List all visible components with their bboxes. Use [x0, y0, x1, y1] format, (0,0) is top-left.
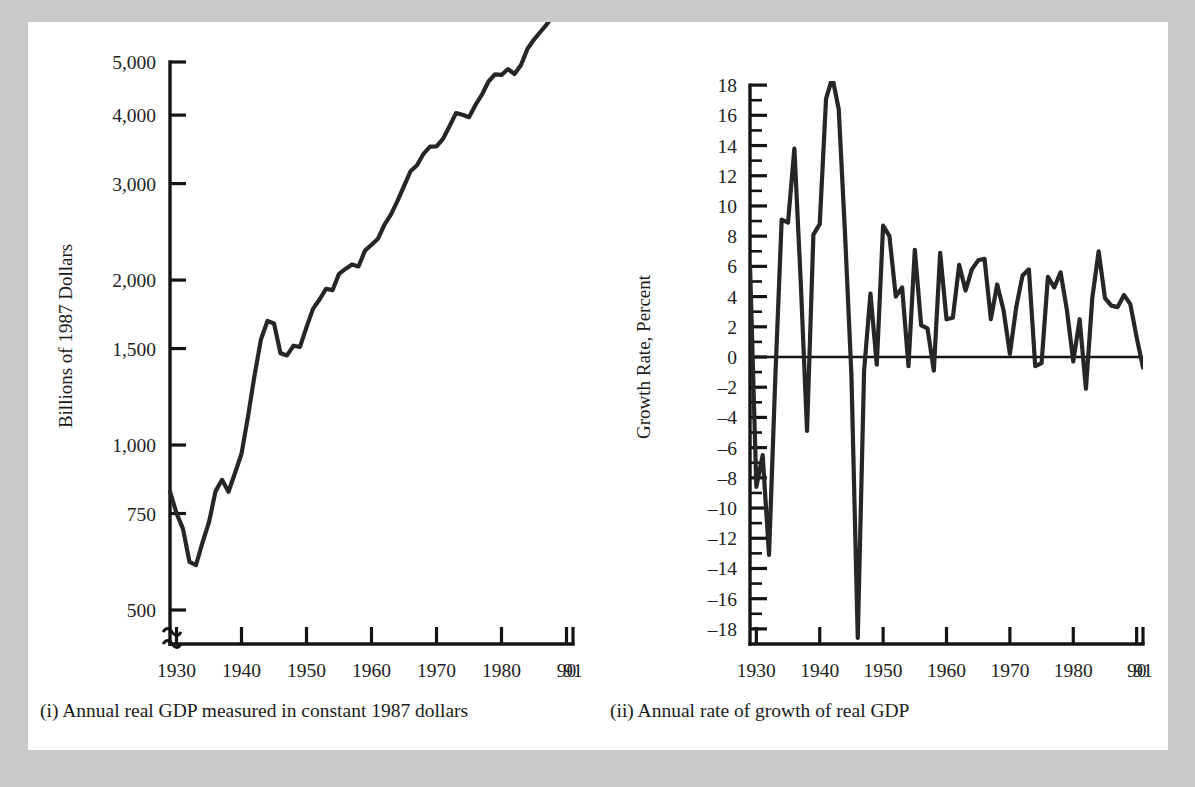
x-tick-label: 1970 — [990, 660, 1029, 681]
caption-panel-ii: (ii) Annual rate of growth of real GDP — [610, 700, 909, 722]
y-tick-label: 2 — [727, 317, 737, 338]
y-tick-label: –16 — [707, 589, 738, 610]
y-tick-label: –6 — [717, 438, 738, 459]
caption-panel-i: (i) Annual real GDP measured in constant… — [40, 700, 468, 722]
y-tick-label: –4 — [717, 407, 738, 428]
panel-real-gdp-growth: 181614121086420–2–4–6–8–10–12–14–16–1819… — [598, 22, 1168, 750]
x-tick-label: 1980 — [1054, 660, 1093, 681]
y-tick-label: 750 — [127, 504, 156, 525]
y-tick-label: 10 — [718, 196, 738, 217]
y-tick-label: 4 — [727, 287, 737, 308]
y-tick-label: 8 — [727, 226, 737, 247]
y-tick-label: 5,000 — [112, 52, 156, 73]
y-tick-label: 14 — [718, 136, 738, 157]
y-tick-label: –2 — [717, 377, 738, 398]
y-tick-label: –8 — [717, 468, 738, 489]
y-tick-label: 4,000 — [112, 105, 156, 126]
y-tick-label: –10 — [707, 498, 737, 519]
x-tick-label: 1930 — [737, 660, 776, 681]
y-tick-label: 0 — [727, 347, 737, 368]
figure-page: 5007501,0001,5002,0003,0004,0005,0001930… — [28, 22, 1168, 750]
y-tick-label: –14 — [707, 558, 738, 579]
x-tick-label: 1970 — [417, 660, 456, 681]
x-tick-label: 1940 — [800, 660, 839, 681]
x-tick-label: 1980 — [482, 660, 521, 681]
y-axis-title: Billions of 1987 Dollars — [55, 244, 76, 428]
chart-real-gdp-growth: 181614121086420–2–4–6–8–10–12–14–16–1819… — [598, 22, 1168, 722]
y-tick-label: 18 — [718, 75, 738, 96]
series-line-gdp-level — [170, 22, 573, 565]
y-tick-label: 1,500 — [112, 339, 156, 360]
y-tick-label: 3,000 — [112, 174, 156, 195]
x-tick-label: 1960 — [352, 660, 391, 681]
chart-real-gdp-level: 5007501,0001,5002,0003,0004,0005,0001930… — [28, 22, 598, 722]
x-tick-label: 1950 — [864, 660, 903, 681]
figure-wrapper: 5007501,0001,5002,0003,0004,0005,0001930… — [28, 22, 1168, 750]
y-tick-label: 2,000 — [112, 270, 156, 291]
x-tick-label: 1940 — [222, 660, 261, 681]
x-tick-label: 1930 — [157, 660, 196, 681]
y-tick-label: 12 — [718, 166, 738, 187]
y-tick-label: –12 — [707, 528, 737, 549]
y-axis-title: Growth Rate, Percent — [633, 274, 654, 439]
y-tick-label: 16 — [718, 105, 738, 126]
y-tick-label: 6 — [727, 256, 737, 277]
x-tick-label: 1960 — [927, 660, 966, 681]
y-tick-label: 1,000 — [112, 435, 156, 456]
x-tick-label: 91 — [1133, 660, 1153, 681]
x-tick-label: 91 — [563, 660, 583, 681]
x-tick-label: 1950 — [287, 660, 326, 681]
panel-real-gdp-level: 5007501,0001,5002,0003,0004,0005,0001930… — [28, 22, 598, 750]
y-tick-label: 500 — [127, 600, 156, 621]
y-tick-label: –18 — [707, 619, 737, 640]
